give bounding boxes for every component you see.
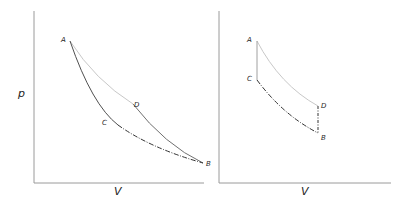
curve-a-d [257,41,318,106]
pv-diagrams-canvas: A D C B p V A C D B V [0,0,407,197]
x-axis-label: V [114,185,123,197]
curve-a-d [70,41,133,104]
curve-a-c [70,41,118,125]
curve-c-b [118,125,203,163]
curve-d-b [133,104,203,163]
point-label-b: B [321,134,326,142]
y-axis-label: p [17,87,25,100]
right-pv-diagram: A C D B V [219,11,391,197]
point-label-a: A [246,36,252,44]
point-label-c: C [247,75,252,83]
point-label-b: B [206,160,211,168]
curve-c-b [257,80,318,133]
point-label-d: D [134,101,140,109]
point-label-c: C [102,119,107,127]
x-axis-label: V [301,185,310,197]
point-label-d: D [321,102,327,110]
left-pv-diagram: A D C B p V [17,11,211,197]
point-label-a: A [60,36,66,44]
